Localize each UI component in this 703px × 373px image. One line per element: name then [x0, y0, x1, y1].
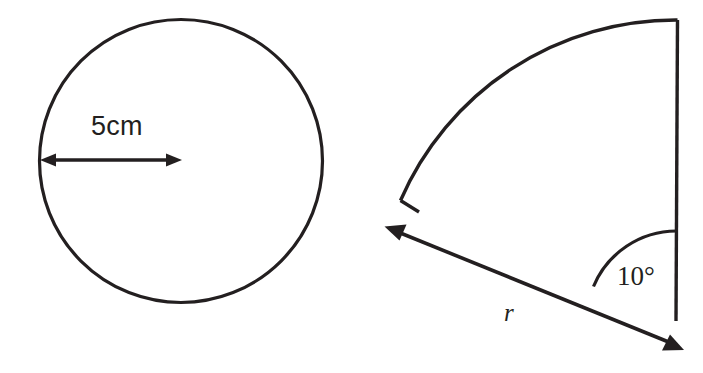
sector-edge-upper-left: [401, 201, 420, 213]
circle-radius-arrow: [40, 154, 182, 167]
sector-radius-vertical: [676, 20, 678, 321]
angle-label: 10°: [617, 263, 655, 290]
radius-arrow-head-left: [40, 154, 56, 167]
sector-arc: [401, 20, 678, 201]
geometry-canvas: [0, 0, 703, 373]
radius-label: r: [504, 300, 514, 325]
circle-measure-label: 5cm: [91, 113, 143, 140]
left-circle-group: [40, 20, 323, 303]
radius-arrow-head-right: [166, 154, 182, 167]
geometry-figure: 5cm 10° r: [0, 0, 703, 373]
right-sector-group: [385, 20, 685, 351]
